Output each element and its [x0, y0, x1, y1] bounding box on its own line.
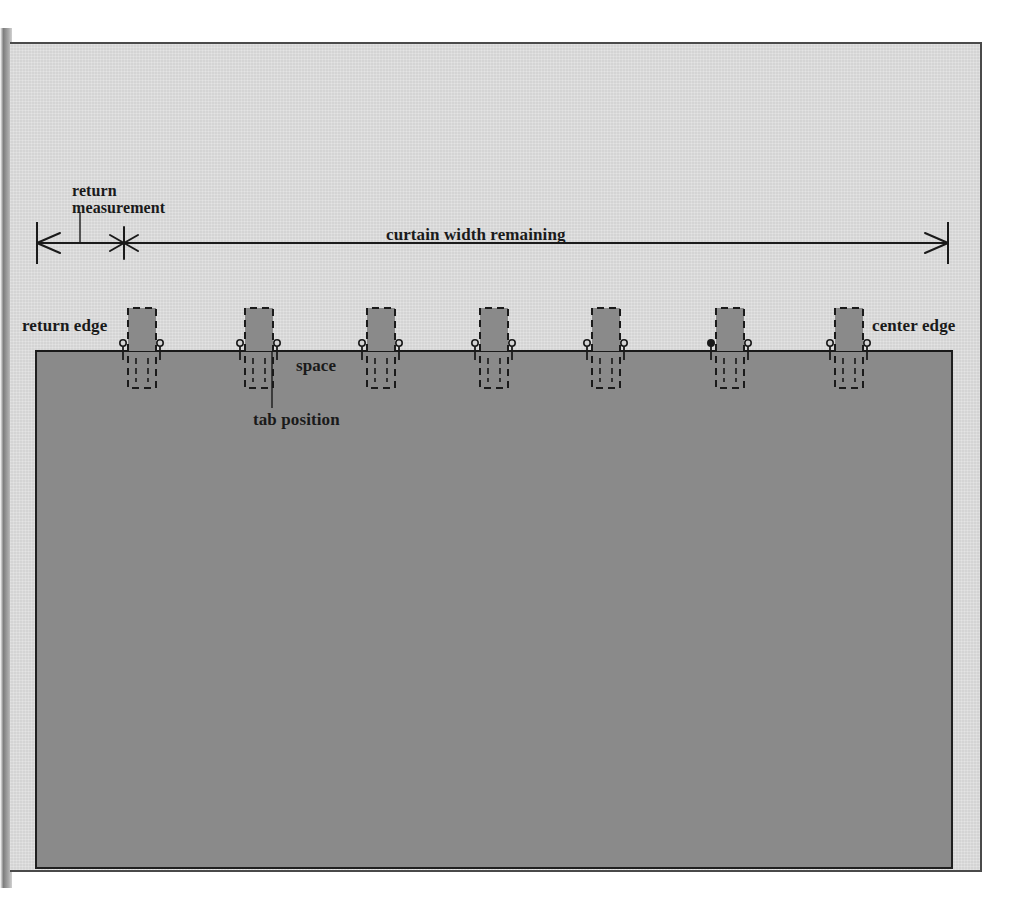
label-tab-position: tab position [253, 411, 340, 429]
label-return-measurement-line1: return [72, 182, 165, 199]
label-curtain-width-remaining: curtain width remaining [386, 226, 566, 244]
scanned-page [10, 42, 982, 872]
label-space: space [296, 357, 336, 375]
paper-grain [10, 44, 980, 870]
label-return-edge: return edge [22, 317, 107, 335]
label-return-measurement-line2: measurement [72, 199, 165, 216]
label-return-measurement: return measurement [72, 182, 165, 217]
diagram-canvas: return measurement curtain width remaini… [0, 0, 1023, 901]
label-center-edge: center edge [872, 317, 955, 335]
